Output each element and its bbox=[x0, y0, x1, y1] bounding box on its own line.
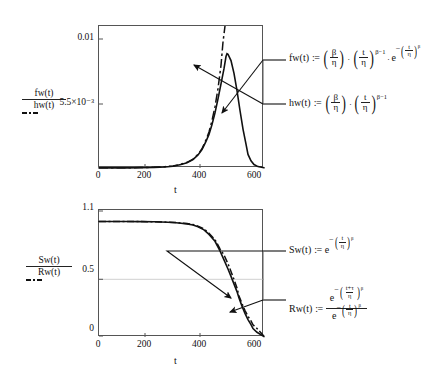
formula-hw-name: hw(t) bbox=[289, 97, 311, 108]
sw-e-bot: η bbox=[339, 242, 346, 250]
formula-fw-name: fw(t) bbox=[289, 52, 309, 63]
hw-f1-bot: η bbox=[331, 102, 340, 112]
bottom-chart-panel: Sw(t) Rw(t) 1.1 0.5 0 0 200 400 600 t bbox=[0, 190, 437, 377]
top-xtick-2: 400 bbox=[189, 171, 209, 181]
top-xtick-3: 600 bbox=[244, 171, 264, 181]
paren-open-icon: ( bbox=[342, 304, 345, 316]
fw-exponent-block: − ( t η ) β bbox=[396, 44, 420, 59]
formula-fw-group1: ( β η ) bbox=[322, 48, 345, 68]
bottom-xtick-3: 600 bbox=[244, 340, 264, 350]
bottom-xtick-0: 0 bbox=[88, 340, 108, 350]
formula-fw: fw(t) := ( β η ) · ( t η ) β−1 · e − ( bbox=[289, 48, 420, 68]
formula-rw: Rw(t) := e − ( t+τ η ) β bbox=[289, 292, 367, 324]
rw-den-bot: η bbox=[346, 309, 353, 317]
top-plot-svg bbox=[99, 26, 264, 168]
multiply-dot-icon: · bbox=[347, 54, 350, 64]
top-ytick-1: 5.5×10⁻³ bbox=[34, 98, 94, 108]
rw-den-exp: β bbox=[358, 303, 361, 308]
top-ytick-marks bbox=[99, 39, 103, 104]
paren-close-icon: ) bbox=[414, 45, 417, 57]
formula-hw-assign: := bbox=[314, 97, 321, 108]
fw-e-bot: η bbox=[405, 50, 412, 58]
formula-sw: Sw(t) := e − ( t η ) β bbox=[289, 242, 354, 257]
hw-f2-bot: η bbox=[361, 102, 370, 112]
paren-open-icon: ( bbox=[401, 45, 404, 57]
paren-open-icon: ( bbox=[326, 94, 330, 112]
bottom-xaxis-label: t bbox=[174, 355, 177, 366]
formula-fw-assign: := bbox=[312, 52, 319, 63]
bottom-plot-frame bbox=[98, 209, 263, 336]
paren-open-icon: ( bbox=[355, 94, 359, 112]
bottom-xtick-2: 400 bbox=[189, 340, 209, 350]
fw-e-exp: β bbox=[418, 44, 421, 49]
hw-f1-top: β bbox=[331, 93, 340, 102]
paren-close-icon: ) bbox=[340, 49, 344, 67]
fw-f1-bot: η bbox=[330, 57, 339, 67]
paren-open-icon: ( bbox=[340, 286, 343, 298]
paren-close-icon: ) bbox=[354, 304, 357, 316]
paren-close-icon: ) bbox=[347, 236, 350, 248]
curve-hw bbox=[99, 26, 225, 168]
fw-f1-top: β bbox=[330, 48, 339, 57]
bottom-ytick-marks bbox=[99, 211, 103, 336]
legend-dashdot-marker bbox=[26, 279, 72, 282]
bottom-plot-svg bbox=[99, 210, 264, 337]
formula-sw-name: Sw(t) bbox=[289, 244, 311, 255]
sw-exponent-block: − ( t η ) β bbox=[329, 235, 353, 250]
sw-e-top: t bbox=[339, 235, 345, 242]
formula-rw-assign: := bbox=[315, 303, 322, 314]
paren-open-icon: ( bbox=[324, 49, 328, 67]
rw-num-exp: β bbox=[361, 286, 364, 291]
paren-open-icon: ( bbox=[353, 49, 357, 67]
formula-hw-group2: ( t η ) β−1 bbox=[353, 93, 387, 113]
rw-denominator: e − ( t η ) β bbox=[328, 310, 365, 325]
top-xtick-0: 0 bbox=[88, 171, 108, 181]
bottom-xtick-1: 200 bbox=[134, 340, 154, 350]
fw-exp2: β−1 bbox=[375, 48, 385, 55]
bottom-ytick-1: 0.5 bbox=[54, 265, 94, 275]
fw-e-top: t bbox=[406, 44, 412, 51]
paren-close-icon: ) bbox=[371, 94, 375, 112]
paren-close-icon: ) bbox=[369, 49, 373, 67]
rw-num-top: t+τ bbox=[344, 285, 356, 292]
sw-e-exp: β bbox=[351, 236, 354, 241]
hw-f2-top: t bbox=[362, 93, 369, 102]
hw-exp2: β−1 bbox=[377, 93, 387, 100]
paren-close-icon: ) bbox=[357, 286, 360, 298]
bottom-ytick-2: 0 bbox=[54, 324, 94, 334]
formula-hw: hw(t) := ( β η ) · ( t η ) β−1 bbox=[289, 93, 387, 113]
paren-open-icon: ( bbox=[335, 236, 338, 248]
top-chart-panel: fw(t) hw(t) 0.01 5.5×10⁻³ 0 200 400 600 … bbox=[0, 0, 437, 190]
formula-fw-group2: ( t η ) β−1 bbox=[352, 48, 386, 68]
fw-f2-bot: η bbox=[359, 57, 368, 67]
bottom-xtick-marks bbox=[145, 333, 200, 337]
top-ytick-0: 0.01 bbox=[44, 33, 94, 43]
rw-num-bot: η bbox=[346, 292, 353, 300]
fw-f2-top: t bbox=[360, 48, 367, 57]
top-plot-frame bbox=[98, 25, 263, 167]
top-xtick-1: 200 bbox=[134, 171, 154, 181]
multiply-dot-icon: · bbox=[349, 99, 352, 109]
formula-hw-group1: ( β η ) bbox=[324, 93, 347, 113]
multiply-dot-icon: · bbox=[387, 54, 390, 64]
paren-close-icon: ) bbox=[342, 94, 346, 112]
legend-dashdot-marker bbox=[22, 112, 66, 115]
formula-rw-name: Rw(t) bbox=[289, 303, 312, 314]
bottom-ytick-0: 1.1 bbox=[54, 203, 94, 213]
curve-fw bbox=[99, 54, 264, 168]
rw-big-fraction: e − ( t+τ η ) β e bbox=[326, 292, 368, 324]
formula-sw-assign: := bbox=[314, 244, 321, 255]
rw-den-top: t bbox=[347, 303, 353, 310]
